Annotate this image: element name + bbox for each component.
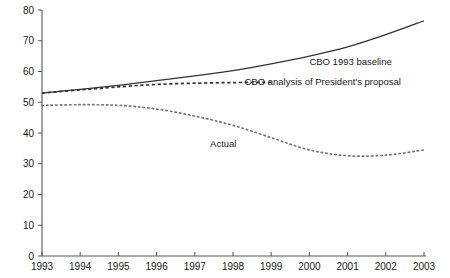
x-tick-label: 2000 — [298, 261, 321, 272]
y-tick-label: 10 — [23, 220, 35, 231]
x-tick-labels: 1993199419951996199719981999200020012002… — [31, 261, 436, 272]
y-tick-labels: 01020304050607080 — [23, 5, 35, 262]
x-tick-label: 1994 — [69, 261, 92, 272]
series-line-cbo-analysis-of-president-s-proposal — [42, 82, 271, 93]
x-tick-label: 1999 — [260, 261, 283, 272]
chart-page: 01020304050607080 1993199419951996199719… — [0, 0, 450, 278]
y-tick-label: 30 — [23, 158, 35, 169]
x-tick-label: 2002 — [375, 261, 398, 272]
x-tick-label: 1996 — [145, 261, 168, 272]
x-tick-label: 1997 — [184, 261, 207, 272]
line-chart: 01020304050607080 1993199419951996199719… — [0, 0, 450, 278]
x-tick-label: 1993 — [31, 261, 54, 272]
y-tick-label: 20 — [23, 189, 35, 200]
x-tick-label: 1998 — [222, 261, 245, 272]
y-axis-group: 01020304050607080 — [23, 5, 42, 262]
x-tick-marks — [42, 252, 424, 256]
data-series-group — [42, 21, 424, 156]
y-tick-label: 40 — [23, 128, 35, 139]
y-tick-label: 80 — [23, 5, 35, 16]
annotation-label-cbo-analysis-of-president-s-proposal: CBO analysis of President's proposal — [244, 76, 401, 87]
x-tick-label: 2001 — [336, 261, 359, 272]
x-tick-label: 1995 — [107, 261, 130, 272]
x-tick-label: 2003 — [413, 261, 436, 272]
annotation-label-actual: Actual — [210, 138, 236, 149]
annotation-label-cbo-1993-baseline: CBO 1993 baseline — [309, 56, 391, 67]
x-axis-group: 1993199419951996199719981999200020012002… — [31, 252, 436, 272]
y-tick-label: 70 — [23, 35, 35, 46]
y-tick-label: 50 — [23, 97, 35, 108]
y-tick-marks — [38, 10, 42, 256]
y-tick-label: 60 — [23, 66, 35, 77]
y-tick-label: 0 — [28, 251, 34, 262]
